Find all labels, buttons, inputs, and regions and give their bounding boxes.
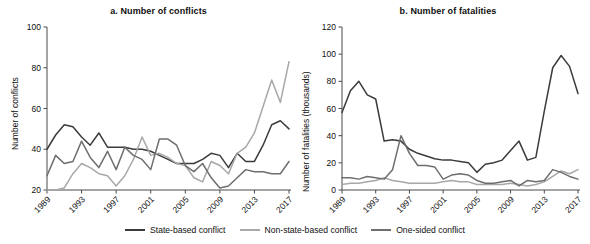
legend-item: One-sided conflict (371, 225, 465, 235)
panel-b-plot: 0204060801001201989199319972001200520092… (292, 0, 590, 215)
x-tick-label: 2005 (170, 194, 191, 215)
x-tick-label: 2013 (239, 194, 260, 215)
x-tick-label: 1997 (101, 194, 122, 215)
x-tick-label: 1989 (32, 194, 53, 215)
chart-panel-b: b. Number of fatalities 0204060801001201… (292, 0, 590, 215)
x-tick-label: 2001 (428, 194, 449, 215)
panel-a-plot: 2040608010019891993199720012005200920132… (0, 0, 295, 215)
y-tick-label: 100 (322, 49, 336, 59)
y-tick-label: 120 (322, 22, 336, 32)
legend-line-swatch (125, 229, 145, 231)
chart-panel-a: a. Number of conflicts Number of conflic… (0, 0, 295, 215)
legend-label: State-based conflict (150, 225, 225, 235)
y-tick-label: 100 (27, 22, 41, 32)
panel-b-y-axis-label: Number of fatalities (thousands) (301, 72, 311, 192)
y-tick-label: 80 (327, 76, 337, 86)
legend-item: Non-state-based conflict (240, 225, 358, 235)
figure-container: a. Number of conflicts Number of conflic… (0, 0, 590, 244)
legend-line-swatch (371, 229, 391, 231)
x-tick-label: 2001 (136, 194, 157, 215)
y-tick-label: 60 (327, 104, 337, 114)
x-tick-label: 1993 (361, 194, 382, 215)
y-tick-label: 60 (32, 104, 42, 114)
y-tick-label: 20 (327, 158, 337, 168)
y-tick-label: 0 (331, 185, 336, 195)
x-tick-label: 2009 (205, 194, 226, 215)
legend-line-swatch (240, 229, 260, 231)
x-tick-label: 2005 (462, 194, 483, 215)
x-tick-label: 2017 (563, 194, 584, 215)
x-tick-label: 1993 (67, 194, 88, 215)
x-tick-label: 1997 (394, 194, 415, 215)
chart-legend: State-based conflict Non-state-based con… (0, 216, 590, 244)
y-tick-label: 20 (32, 185, 42, 195)
x-tick-label: 2013 (529, 194, 550, 215)
legend-label: One-sided conflict (396, 225, 465, 235)
y-tick-label: 80 (32, 63, 42, 73)
legend-label: Non-state-based conflict (265, 225, 358, 235)
series-line-state-based-conflict (342, 56, 578, 173)
y-tick-label: 40 (327, 131, 337, 141)
y-tick-label: 40 (32, 144, 42, 154)
x-tick-label: 2009 (496, 194, 517, 215)
legend-item: State-based conflict (125, 225, 225, 235)
x-tick-label: 1989 (327, 194, 348, 215)
